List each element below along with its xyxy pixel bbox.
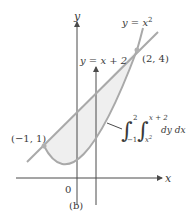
y-axis-label: y	[73, 10, 81, 23]
point-neg1-1	[42, 144, 47, 149]
origin-label: 0	[65, 184, 71, 195]
diagram-canvas: y x 0 y = x2 y = x + 2 (2, 4) (−1, 1) ∫ …	[0, 0, 195, 215]
double-integral-region-figure: y x 0 y = x2 y = x + 2 (2, 4) (−1, 1) ∫ …	[0, 0, 195, 215]
parabola-label-base: y = x	[121, 17, 148, 28]
figure-caption: (b)	[69, 200, 83, 211]
point-label-neg1-1: (−1, 1)	[11, 133, 46, 144]
point-label-2-4: (2, 4)	[142, 53, 169, 64]
parabola-label-exp: 2	[148, 16, 152, 24]
integral-leader-line	[107, 123, 122, 129]
inner-lower-limit: x2	[145, 134, 152, 144]
integral-expression: ∫ 2 −1 ∫ x + 2 x2 dy dx	[121, 114, 186, 144]
x-axis-label: x	[165, 172, 172, 185]
inner-upper-limit: x + 2	[149, 114, 168, 122]
outer-lower-limit: −1	[127, 136, 137, 144]
inner-lower-exp: 2	[148, 134, 152, 140]
parabola-label: y = x2	[121, 16, 153, 28]
line-label: y = x + 2	[79, 55, 127, 66]
integrand: dy dx	[161, 125, 186, 135]
point-2-4	[135, 48, 140, 53]
